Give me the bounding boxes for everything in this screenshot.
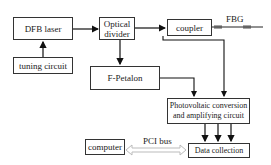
coupler-box: coupler [167, 19, 212, 36]
tuning-circuit-label: tuning circuit [19, 61, 67, 71]
dfb-laser-label: DFB laser [25, 24, 62, 34]
computer-box: computer [85, 139, 125, 155]
data-collection-label: Data collection [195, 146, 244, 156]
optical-divider-box: Optical divider [99, 17, 135, 40]
optical-divider-label-1: Optical [104, 19, 131, 29]
photovoltaic-label-1: Photovoltaic conversion [170, 101, 248, 111]
coupler-label: coupler [176, 23, 203, 33]
data-collection-box: Data collection [188, 143, 250, 158]
computer-label: computer [88, 142, 122, 152]
pci-bus-label: PCI bus [143, 136, 172, 146]
optical-divider-label-2: divider [104, 29, 130, 39]
fbg-label: FBG [226, 14, 244, 24]
pci-bus-double-arrow-icon [126, 145, 186, 155]
photovoltaic-box: Photovoltaic conversion and amplifying c… [167, 98, 250, 124]
tuning-circuit-box: tuning circuit [13, 57, 73, 74]
f-petalon-box: F-Petalon [90, 66, 160, 90]
f-petalon-label: F-Petalon [108, 73, 143, 83]
dfb-laser-box: DFB laser [13, 17, 73, 40]
photovoltaic-label-2: and amplifying circuit [173, 111, 244, 121]
